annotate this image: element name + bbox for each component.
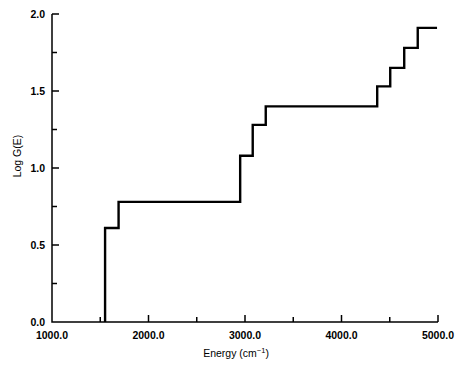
axis-ticks (52, 53, 390, 323)
x-tick-label: 4000.0 (308, 329, 376, 341)
chart-plot-area (0, 0, 472, 374)
y-tick-label: 2.0 (4, 8, 45, 20)
y-tick-label: 0.5 (4, 239, 45, 251)
y-tick-label: 1.5 (4, 85, 45, 97)
x-tick-label: 2000.0 (115, 329, 183, 341)
axes (52, 14, 438, 322)
x-axis-title-text: Energy (cm (203, 347, 257, 359)
y-axis-title: Log G(E) (11, 120, 23, 192)
chart-figure: 0.00.51.01.52.0 1000.02000.03000.04000.0… (0, 0, 472, 374)
x-tick-label: 5000.0 (404, 329, 472, 341)
x-axis-title-paren: ) (265, 347, 269, 359)
x-axis-title: Energy (cm−1) (0, 347, 472, 359)
step-curve-series (105, 28, 437, 322)
y-tick-label: 0.0 (4, 316, 45, 328)
x-tick-label: 3000.0 (211, 329, 279, 341)
x-tick-label: 1000.0 (18, 329, 86, 341)
